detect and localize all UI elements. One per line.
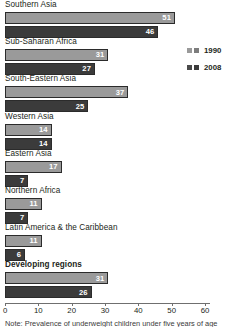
category-label: Developing regions — [5, 260, 82, 270]
bar: 31 — [5, 272, 108, 284]
bar-1990: 11 — [5, 198, 42, 210]
chart-row: Eastern Asia177 — [0, 149, 233, 186]
bar-value-label: 14 — [39, 126, 51, 134]
bar-2008: 46 — [5, 26, 158, 38]
category-label: Northern Africa — [5, 186, 60, 196]
bar-value-label: 7 — [20, 177, 27, 185]
bar-2008: 7 — [5, 175, 28, 187]
bar-2008: 27 — [5, 63, 95, 75]
chart-row: Northern Africa117 — [0, 186, 233, 223]
axis-line — [5, 303, 210, 304]
bar-1990: 14 — [5, 124, 52, 136]
bar: 46 — [5, 26, 158, 38]
category-label: Sub-Saharan Africa — [5, 37, 77, 47]
legend-item-1990: 1990 — [187, 45, 233, 56]
bar-2008: 7 — [5, 212, 28, 224]
axis-tick-label: 40 — [134, 307, 143, 315]
category-label: Latin America & the Caribbean — [5, 223, 118, 233]
chart-row: Southern Asia5146 — [0, 0, 233, 37]
bar-2008: 14 — [5, 138, 52, 150]
bar-1990: 11 — [5, 235, 42, 247]
bar-value-label: 17 — [49, 163, 61, 171]
bar-value-label: 11 — [29, 237, 40, 245]
bar-value-label: 31 — [96, 51, 108, 59]
bar: 11 — [5, 198, 42, 210]
bar-value-label: 14 — [39, 140, 51, 148]
bar-value-label: 31 — [96, 275, 108, 283]
bar-2008: 25 — [5, 100, 88, 112]
axis-tick-label: 10 — [34, 307, 43, 315]
axis-tick-label: 0 — [3, 307, 7, 315]
legend-swatch-icon — [187, 48, 192, 53]
bar-value-label: 46 — [146, 28, 158, 36]
bar-1990: 17 — [5, 161, 62, 173]
legend-item-2008: 2008 — [187, 62, 233, 73]
legend-swatch-icon — [194, 48, 199, 53]
bar-value-label: 37 — [116, 89, 128, 97]
chart-row: Developing regions3126 — [0, 260, 233, 297]
bar: 14 — [5, 124, 52, 136]
bar: 17 — [5, 161, 62, 173]
bar-chart: Southern Asia5146Sub-Saharan Africa3127S… — [0, 0, 233, 327]
chart-row: South-Eastern Asia3725 — [0, 74, 233, 111]
axis-tick-label: 60 — [201, 307, 210, 315]
bar: 14 — [5, 138, 52, 150]
axis-tick-label: 30 — [101, 307, 110, 315]
bar-1990: 31 — [5, 49, 108, 61]
bar-1990: 51 — [5, 12, 175, 24]
bar-value-label: 6 — [17, 251, 24, 259]
bar-value-label: 27 — [82, 65, 94, 73]
bar: 26 — [5, 286, 92, 298]
legend-swatch-icon — [194, 65, 199, 70]
chart-row: Latin America & the Caribbean116 — [0, 223, 233, 260]
category-label: Western Asia — [5, 112, 54, 122]
axis-tick-label: 20 — [67, 307, 76, 315]
chart-legend: 1990 2008 — [187, 45, 233, 79]
legend-swatch-icon — [187, 65, 192, 70]
axis-tick-label: 50 — [167, 307, 176, 315]
bar: 37 — [5, 86, 128, 98]
legend-label: 2008 — [204, 64, 221, 72]
bar: 31 — [5, 49, 108, 61]
bar-1990: 31 — [5, 272, 108, 284]
category-label: Southern Asia — [5, 0, 57, 10]
bar: 27 — [5, 63, 95, 75]
bar: 11 — [5, 235, 42, 247]
bar-value-label: 7 — [20, 214, 27, 222]
bar: 25 — [5, 100, 88, 112]
category-label: Eastern Asia — [5, 149, 52, 159]
chart-row: Western Asia1414 — [0, 112, 233, 149]
bar-value-label: 26 — [79, 289, 91, 297]
bar: 7 — [5, 212, 28, 224]
bar-value-label: 51 — [162, 14, 174, 22]
bar-2008: 6 — [5, 249, 25, 261]
bar-1990: 37 — [5, 86, 128, 98]
bar: 7 — [5, 175, 28, 187]
bar: 51 — [5, 12, 175, 24]
category-label: South-Eastern Asia — [5, 74, 76, 84]
bar-value-label: 25 — [76, 103, 88, 111]
bar-value-label: 11 — [29, 200, 40, 208]
legend-label: 1990 — [204, 47, 221, 55]
bar-2008: 26 — [5, 286, 92, 298]
bar: 6 — [5, 249, 25, 261]
chart-note: Note: Prevalence of underweight children… — [5, 320, 233, 327]
